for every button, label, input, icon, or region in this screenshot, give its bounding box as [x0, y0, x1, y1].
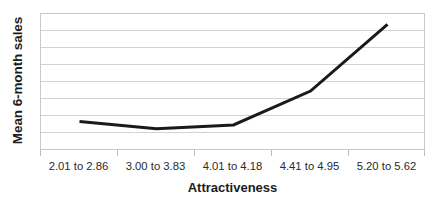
- y-axis-title-text: Mean 6-month sales: [11, 16, 26, 143]
- line-chart-figure: Mean 6-month sales 2.01 to 2.86 3.00 to …: [0, 0, 447, 206]
- x-tick-label: 3.00 to 3.83: [117, 157, 194, 175]
- y-axis-title: Mean 6-month sales: [0, 0, 36, 160]
- x-tick: [117, 150, 118, 156]
- plot-area: [40, 13, 425, 150]
- x-tick: [194, 150, 195, 156]
- x-axis-tick-marks: [40, 150, 425, 156]
- x-tick-label: 5.20 to 5.62: [348, 157, 425, 175]
- x-tick: [40, 150, 41, 156]
- x-tick: [424, 150, 425, 156]
- x-tick: [271, 150, 272, 156]
- x-axis-tick-labels: 2.01 to 2.86 3.00 to 3.83 4.01 to 4.18 4…: [40, 157, 425, 175]
- x-tick-label: 2.01 to 2.86: [40, 157, 117, 175]
- x-tick-label: 4.41 to 4.95: [271, 157, 348, 175]
- x-tick: [348, 150, 349, 156]
- data-series-line: [41, 14, 426, 151]
- x-axis-title: Attractiveness: [40, 180, 425, 195]
- x-tick-label: 4.01 to 4.18: [194, 157, 271, 175]
- series-polyline: [80, 24, 388, 128]
